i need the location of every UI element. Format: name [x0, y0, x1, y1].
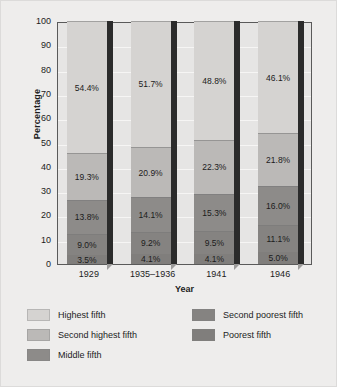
legend-label: Second highest fifth — [58, 330, 137, 340]
bar-segment-label: 19.3% — [67, 172, 107, 182]
bar-segment[interactable]: 54.4% — [67, 21, 107, 153]
bar-segment-label: 11.1% — [258, 234, 298, 244]
bar-segment[interactable]: 9.5% — [194, 231, 234, 254]
bar-shadow — [234, 21, 240, 264]
bar-segment-label: 4.1% — [131, 254, 171, 264]
legend-item[interactable]: Highest fifth — [27, 305, 137, 325]
bar-segment-label: 15.3% — [194, 208, 234, 218]
bar-segment[interactable]: 19.3% — [67, 153, 107, 200]
bar-segment[interactable]: 4.1% — [131, 254, 171, 264]
stacked-bar[interactable]: 46.1%21.8%16.0%11.1%5.0% — [258, 21, 298, 264]
bar-segment[interactable]: 9.0% — [67, 234, 107, 256]
y-axis-tick-label: 90 — [23, 40, 51, 50]
legend-column-left: Highest fifthSecond highest fifthMiddle … — [27, 305, 137, 365]
y-axis-tick-label: 0 — [23, 259, 51, 269]
x-axis-tick-label: 1946 — [248, 269, 312, 279]
bar-segment-label: 22.3% — [194, 162, 234, 172]
bar-segment-label: 9.2% — [131, 238, 171, 248]
legend-swatch — [192, 329, 215, 341]
legend-swatch — [27, 349, 50, 361]
bar-segment[interactable]: 20.9% — [131, 147, 171, 198]
stacked-bar[interactable]: 48.8%22.3%15.3%9.5%4.1% — [194, 21, 234, 264]
legend-item[interactable]: Middle fifth — [27, 345, 137, 365]
bar-segment-label: 48.8% — [194, 76, 234, 86]
bar-segment[interactable]: 48.8% — [194, 21, 234, 140]
bar-segment-label: 14.1% — [131, 210, 171, 220]
y-axis-tick-label: 40 — [23, 162, 51, 172]
bar-segment[interactable]: 22.3% — [194, 140, 234, 194]
legend-swatch — [27, 309, 50, 321]
bar-segment[interactable]: 4.1% — [194, 254, 234, 264]
bar-shadow — [298, 21, 304, 264]
bar-segment[interactable]: 46.1% — [258, 21, 298, 133]
bar-shadow — [107, 21, 113, 264]
x-axis-tick-label: 1941 — [185, 269, 249, 279]
bar-segment-label: 21.8% — [258, 155, 298, 165]
y-axis-tick-label: 50 — [23, 138, 51, 148]
bar-segment[interactable]: 5.0% — [258, 252, 298, 264]
plot-area: 54.4%19.3%13.8%9.0%3.5%51.7%20.9%14.1%9.… — [57, 22, 312, 265]
x-axis-tick-label: 1929 — [57, 269, 121, 279]
legend-item[interactable]: Second highest fifth — [27, 325, 137, 345]
bar-segment-label: 46.1% — [258, 73, 298, 83]
legend-item[interactable]: Poorest fifth — [192, 325, 303, 345]
bar-segment-label: 16.0% — [258, 201, 298, 211]
legend-label: Poorest fifth — [223, 330, 271, 340]
y-axis-tick-label: 60 — [23, 113, 51, 123]
bar-segment[interactable]: 3.5% — [67, 255, 107, 264]
bar-segment-label: 54.4% — [67, 83, 107, 93]
bar-segment-label: 13.8% — [67, 212, 107, 222]
x-axis-title: Year — [57, 284, 312, 294]
bar-segment-label: 20.9% — [131, 168, 171, 178]
chart-figure: Percentage 0102030405060708090100 54.4%1… — [0, 0, 337, 387]
legend-label: Middle fifth — [58, 350, 102, 360]
legend-swatch — [27, 329, 50, 341]
legend-label: Second poorest fifth — [223, 310, 303, 320]
legend-column-right: Second poorest fifthPoorest fifth — [192, 305, 303, 345]
bar-segment[interactable]: 13.8% — [67, 200, 107, 234]
bar-segment-label: 9.0% — [67, 240, 107, 250]
bar-segment-label: 5.0% — [258, 253, 298, 263]
x-axis-tick-label: 1935–1936 — [121, 269, 185, 279]
y-axis-tick-label: 80 — [23, 65, 51, 75]
legend-swatch — [192, 309, 215, 321]
y-axis-tick-label: 20 — [23, 210, 51, 220]
y-axis-tick-label: 30 — [23, 186, 51, 196]
bar-shadow — [171, 21, 177, 264]
bar-segment-label: 3.5% — [67, 255, 107, 265]
bar-segment[interactable]: 14.1% — [131, 197, 171, 231]
bar-segment[interactable]: 16.0% — [258, 186, 298, 225]
legend-label: Highest fifth — [58, 310, 106, 320]
bar-segment[interactable]: 9.2% — [131, 232, 171, 254]
bar-segment[interactable]: 11.1% — [258, 225, 298, 252]
stacked-bar[interactable]: 51.7%20.9%14.1%9.2%4.1% — [131, 21, 171, 264]
y-axis-tick-label: 10 — [23, 235, 51, 245]
bar-segment[interactable]: 51.7% — [131, 21, 171, 147]
bar-segment[interactable]: 15.3% — [194, 194, 234, 231]
y-axis-tick-label: 100 — [23, 16, 51, 26]
bar-segment[interactable]: 21.8% — [258, 133, 298, 186]
y-axis-tick-label: 70 — [23, 89, 51, 99]
legend-item[interactable]: Second poorest fifth — [192, 305, 303, 325]
bar-segment-label: 51.7% — [131, 79, 171, 89]
stacked-bar[interactable]: 54.4%19.3%13.8%9.0%3.5% — [67, 21, 107, 264]
bar-segment-label: 4.1% — [194, 254, 234, 264]
bar-segment-label: 9.5% — [194, 238, 234, 248]
